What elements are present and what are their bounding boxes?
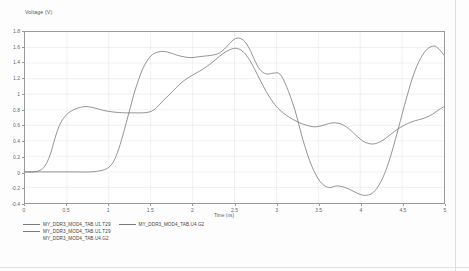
y-tick-label: 0.8 — [2, 107, 20, 113]
y-tick-label: 0.2 — [2, 154, 20, 160]
data-layer — [25, 32, 444, 203]
y-tick-label: 0 — [2, 170, 20, 176]
y-tick-label: -0.2 — [2, 185, 20, 191]
x-tick-label: 0.5 — [56, 207, 76, 213]
series-line — [25, 38, 444, 195]
x-tick-label: 3.5 — [309, 207, 329, 213]
legend-label: MY_DDR3_MOD4_TAB.U1.T29 — [43, 222, 111, 227]
legend-row: MY_DDR3_MOD4_TAB.U1.T29MY_DDR3_MOD4_TAB.… — [23, 221, 323, 228]
y-tick-mark — [22, 110, 24, 111]
legend-row: MY_DDR3_MOD4_TAB.U1.T29 — [23, 228, 323, 235]
x-tick-label: 5 — [435, 207, 455, 213]
x-tick-mark — [445, 204, 446, 206]
x-tick-label: 4.5 — [393, 207, 413, 213]
y-tick-label: 1 — [2, 91, 20, 97]
page-bottom-line — [0, 267, 469, 268]
x-tick-mark — [150, 204, 151, 206]
y-tick-label: 1.4 — [2, 59, 20, 65]
y-tick-mark — [22, 78, 24, 79]
legend-swatch-icon — [23, 224, 40, 225]
legend-row: MY_DDR3_MOD4_TAB.U4.G2 — [23, 235, 323, 242]
legend-swatch-icon — [23, 238, 40, 239]
x-axis-label: Time (ns) — [214, 213, 234, 218]
legend-item[interactable]: MY_DDR3_MOD4_TAB.U1.T29 — [23, 222, 111, 227]
x-tick-mark — [361, 204, 362, 206]
y-tick-mark — [22, 188, 24, 189]
y-tick-label: 0.4 — [2, 138, 20, 144]
y-tick-mark — [22, 31, 24, 32]
legend-label: MY_DDR3_MOD4_TAB.U4.G2 — [139, 222, 205, 227]
y-tick-mark — [22, 141, 24, 142]
x-tick-label: 4 — [351, 207, 371, 213]
legend-label: MY_DDR3_MOD4_TAB.U1.T29 — [43, 229, 111, 234]
x-tick-label: 2 — [182, 207, 202, 213]
legend-item[interactable]: MY_DDR3_MOD4_TAB.U1.T29 — [23, 229, 111, 234]
x-tick-mark — [235, 204, 236, 206]
y-tick-mark — [22, 173, 24, 174]
y-tick-label: 1.6 — [2, 44, 20, 50]
y-tick-mark — [22, 94, 24, 95]
y-tick-label: 1.8 — [2, 28, 20, 34]
legend-item[interactable]: MY_DDR3_MOD4_TAB.U4.G2 — [23, 236, 109, 241]
x-tick-mark — [66, 204, 67, 206]
y-tick-mark — [22, 62, 24, 63]
x-tick-mark — [108, 204, 109, 206]
chart-legend: MY_DDR3_MOD4_TAB.U1.T29MY_DDR3_MOD4_TAB.… — [23, 221, 323, 242]
x-tick-label: 1 — [98, 207, 118, 213]
legend-swatch-icon — [23, 231, 40, 232]
series-line — [25, 48, 444, 172]
x-tick-mark — [192, 204, 193, 206]
legend-item[interactable]: MY_DDR3_MOD4_TAB.U4.G2 — [119, 222, 205, 227]
x-tick-label: 0 — [14, 207, 34, 213]
x-tick-mark — [24, 204, 25, 206]
x-tick-mark — [277, 204, 278, 206]
legend-label: MY_DDR3_MOD4_TAB.U4.G2 — [43, 236, 109, 241]
x-tick-label: 1.5 — [140, 207, 160, 213]
y-tick-mark — [22, 157, 24, 158]
y-tick-mark — [22, 47, 24, 48]
y-tick-label: 1.2 — [2, 75, 20, 81]
y-tick-mark — [22, 125, 24, 126]
page-edge-line — [455, 0, 456, 271]
y-tick-label: 0.6 — [2, 122, 20, 128]
legend-swatch-icon — [119, 224, 136, 225]
plot-area — [24, 31, 445, 204]
x-tick-mark — [319, 204, 320, 206]
chart-title: Voltage (V) — [25, 9, 52, 15]
chart-page: Voltage (V) 1.81.61.41.210.80.60.40.20-0… — [0, 0, 469, 271]
x-tick-mark — [403, 204, 404, 206]
x-tick-label: 3 — [267, 207, 287, 213]
